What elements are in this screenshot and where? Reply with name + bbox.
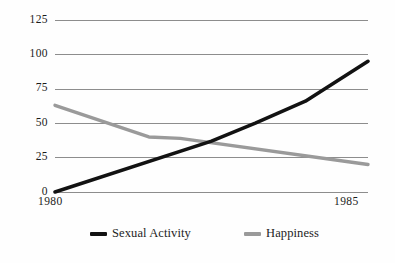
gridline-0: [55, 192, 368, 193]
legend-label-sexual-activity: Sexual Activity: [112, 226, 191, 241]
legend-item-sexual-activity[interactable]: Sexual Activity: [90, 226, 191, 241]
y-tick-75: 75: [36, 82, 48, 94]
y-tick-50: 50: [36, 117, 48, 129]
chart-legend: Sexual Activity Happiness: [0, 226, 395, 250]
legend-swatch-icon: [90, 232, 107, 236]
legend-swatch-icon: [244, 232, 261, 236]
x-tick-1980: 1980: [38, 196, 63, 208]
series-line-sexual-activity: [55, 61, 368, 192]
series-line-happiness: [55, 105, 368, 164]
y-tick-100: 100: [30, 48, 48, 60]
y-axis-tick-labels: 125 100 75 50 25 0: [0, 0, 52, 263]
x-tick-1985: 1985: [334, 196, 359, 208]
y-tick-125: 125: [30, 14, 48, 26]
y-tick-25: 25: [36, 151, 48, 163]
legend-item-happiness[interactable]: Happiness: [244, 226, 319, 241]
chart-figure: 125 100 75 50 25 0 1980 1985 Sexual Acti…: [0, 0, 395, 263]
legend-label-happiness: Happiness: [266, 226, 319, 241]
series-layer: [55, 20, 368, 192]
plot-area: [55, 20, 368, 192]
